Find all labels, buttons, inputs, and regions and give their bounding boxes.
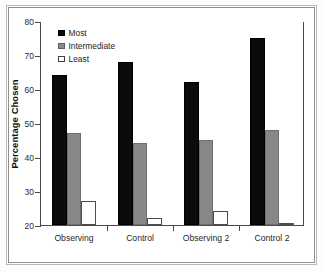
- y-axis-tick-label: 50: [25, 120, 34, 129]
- x-axis-tick: [107, 225, 108, 231]
- bar-intermediate: [67, 133, 82, 225]
- chart-legend: MostIntermediateLeast: [58, 29, 115, 67]
- bar-most: [184, 82, 199, 225]
- x-axis-category-label: Control: [126, 234, 154, 243]
- bar-most: [250, 38, 265, 225]
- bar-most: [118, 62, 133, 225]
- y-axis-tick: [35, 158, 41, 159]
- y-axis-tick-label: 70: [25, 52, 34, 61]
- legend-swatch-least: [58, 56, 65, 63]
- bar-least: [279, 223, 294, 225]
- y-axis-tick: [35, 124, 41, 125]
- x-axis-tick: [239, 225, 240, 231]
- x-axis-category-label: Control 2: [255, 234, 290, 243]
- chart-figure: Percentage Chosen 20304050607080 Observi…: [0, 0, 324, 272]
- bar-intermediate: [199, 140, 214, 225]
- legend-label: Most: [69, 29, 87, 37]
- y-axis-tick-label: 80: [25, 18, 34, 27]
- bar-least: [81, 201, 96, 225]
- y-axis-tick-label: 60: [25, 86, 34, 95]
- y-axis-tick-label: 40: [25, 154, 34, 163]
- legend-item: Intermediate: [58, 42, 115, 50]
- y-axis-tick-label: 20: [25, 222, 34, 231]
- y-axis-tick: [35, 90, 41, 91]
- x-axis-category-label: Observing: [54, 234, 93, 243]
- x-axis-tick: [173, 225, 174, 231]
- x-axis-category-label: Observing 2: [183, 234, 229, 243]
- y-axis-tick: [35, 22, 41, 23]
- bar-intermediate: [265, 130, 280, 225]
- legend-item: Least: [58, 55, 115, 63]
- bar-most: [52, 75, 67, 225]
- legend-label: Least: [69, 55, 90, 63]
- bar-least: [213, 211, 228, 225]
- y-axis-tick-label: 30: [25, 188, 34, 197]
- y-axis-tick: [35, 192, 41, 193]
- bar-least: [147, 218, 162, 225]
- y-axis-title: Percentage Chosen: [9, 79, 20, 168]
- y-axis-tick: [35, 56, 41, 57]
- legend-label: Intermediate: [69, 42, 116, 50]
- legend-item: Most: [58, 29, 115, 37]
- legend-swatch-most: [58, 30, 65, 37]
- bar-intermediate: [133, 143, 148, 225]
- y-axis-tick: [35, 226, 41, 227]
- legend-swatch-intermediate: [58, 43, 65, 50]
